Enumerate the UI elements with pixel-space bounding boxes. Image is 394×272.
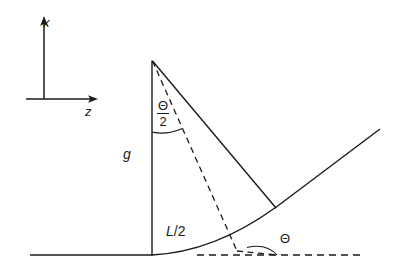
theta-half-numerator: Θ	[157, 99, 169, 114]
theta-half-label: Θ 2	[157, 99, 169, 128]
theta-half-fraction: Θ 2	[157, 99, 169, 128]
radius-line	[153, 61, 277, 208]
arc-length-denominator: 2	[178, 223, 186, 239]
angle-arc-theta-half	[152, 129, 183, 134]
gravity-sag-label: g	[123, 147, 131, 161]
tangent-line	[275, 129, 380, 208]
geometry-diagram-canvas	[0, 0, 394, 272]
arc-length-numerator: L	[166, 223, 174, 239]
figure-root: x z g Θ 2 L/2 Θ	[0, 0, 394, 272]
axis-x-label: x	[43, 16, 50, 29]
arc-length-label: L/2	[166, 224, 185, 238]
theta-half-denominator: 2	[157, 114, 169, 128]
axis-z-label: z	[85, 105, 92, 118]
coordinate-axes-group	[26, 16, 98, 103]
theta-angle-label: Θ	[280, 232, 290, 245]
